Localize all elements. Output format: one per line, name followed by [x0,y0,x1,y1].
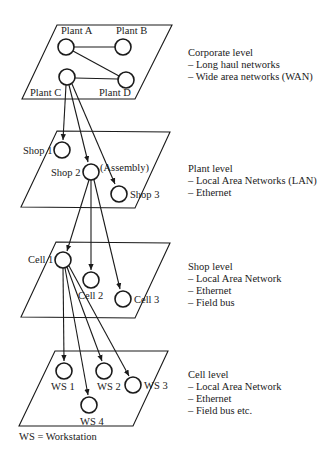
link-plant-c-d [75,78,118,79]
plant-level-item: – Ethernet [188,187,317,199]
plant-level-description: Plant level – Local Area Networks (LAN) … [188,163,317,199]
corporate-level-description: Corporate level – Long haul networks – W… [188,47,313,83]
plant-level-item: – Local Area Networks (LAN) [188,175,317,187]
arrow-plantc-shop2 [69,85,88,162]
node-ws-3 [125,377,141,393]
arrow-plantc-shop1 [63,85,66,140]
label-shop-3: Shop 3 [130,189,159,200]
link-plant-a-d [73,51,119,76]
node-plant-a [58,39,74,55]
node-plant-d [118,72,134,88]
corporate-level-item: – Long haul networks [188,59,313,71]
shop-level-item: – Field bus [188,297,282,309]
label-assembly: (Assembly) [100,162,149,174]
node-ws-2 [96,363,112,379]
label-ws-4: WS 4 [80,416,104,427]
label-ws-2: WS 2 [97,381,121,392]
cell-level-item: – Field bus etc. [188,405,282,417]
shop-level-description: Shop level – Local Area Network – Ethern… [188,261,282,309]
label-plant-a: Plant A [61,25,93,36]
node-plant-c [59,69,75,85]
corporate-level-item: – Wide area networks (WAN) [188,71,313,83]
label-shop-1: Shop 1 [23,145,52,156]
node-ws-1 [56,363,72,379]
arrow-cell1-ws1 [63,268,64,361]
label-ws-1: WS 1 [51,381,75,392]
cell-level-title: Cell level [188,369,282,381]
node-shop-2 [83,164,99,180]
node-shop-3 [111,186,127,202]
label-plant-c: Plant C [30,87,61,98]
shop-level-item: – Ethernet [188,285,282,297]
node-plant-b [115,39,131,55]
node-ws-4 [81,397,97,413]
plant-level-title: Plant level [188,163,317,175]
label-shop-2: Shop 2 [51,167,80,178]
cell-level-item: – Ethernet [188,393,282,405]
node-cell-3 [115,291,131,307]
shop-level-item: – Local Area Network [188,273,282,285]
label-cell-3: Cell 3 [134,294,159,305]
label-plant-b: Plant B [116,25,147,36]
node-shop-1 [54,142,70,158]
legend-footnote: WS = Workstation [19,431,97,442]
cell-level-item: – Local Area Network [188,381,282,393]
corporate-level-title: Corporate level [188,47,313,59]
label-plant-d: Plant D [99,87,131,98]
cell-level-description: Cell level – Local Area Network – Ethern… [188,369,282,417]
node-cell-2 [83,272,99,288]
label-ws-3: WS 3 [144,380,168,391]
label-cell-2: Cell 2 [78,290,103,301]
shop-level-title: Shop level [188,261,282,273]
arrow-shop2-cell1 [67,180,89,251]
label-cell-1: Cell 1 [28,254,53,265]
node-cell-1 [55,252,71,268]
